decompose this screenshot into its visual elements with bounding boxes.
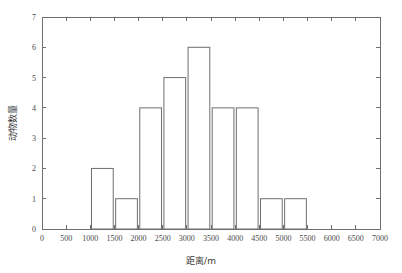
x-tick-label-0: 0 [40, 234, 44, 243]
bar-3500-4000 [212, 108, 234, 229]
y-tick-label-6: 6 [32, 43, 36, 52]
x-tick-label-6000: 6000 [324, 234, 340, 243]
y-tick-label-4: 4 [32, 104, 36, 113]
x-tick-label-7000: 7000 [372, 234, 388, 243]
y-tick-label-1: 1 [32, 195, 36, 204]
histogram-bars [91, 47, 306, 229]
x-tick-label-2500: 2500 [155, 234, 171, 243]
x-tick-label-3500: 3500 [203, 234, 219, 243]
bar-1500-2000 [116, 199, 138, 229]
bar-2500-3000 [164, 78, 186, 229]
bar-2000-2500 [140, 108, 162, 229]
y-tick-label-0: 0 [32, 225, 36, 234]
x-tick-label-3000: 3000 [179, 234, 195, 243]
y-tick-label-5: 5 [32, 74, 36, 83]
histogram-figure: 0500100015002000250030003500400045005000… [0, 0, 402, 273]
y-tick-label-7: 7 [32, 13, 36, 22]
bar-4500-5000 [260, 199, 282, 229]
x-tick-label-1000: 1000 [82, 234, 98, 243]
bar-5000-5500 [285, 199, 307, 229]
x-tick-label-500: 500 [60, 234, 72, 243]
x-tick-label-6500: 6500 [348, 234, 364, 243]
y-axis-tick-labels: 01234567 [32, 13, 36, 234]
y-tick-label-2: 2 [32, 164, 36, 173]
x-tick-label-5000: 5000 [275, 234, 291, 243]
y-tick-label-3: 3 [32, 134, 36, 143]
bar-3000-3500 [188, 47, 210, 229]
y-axis-title: 动物数量 [7, 105, 18, 141]
bar-1000-1500 [91, 168, 113, 229]
x-axis-tick-labels: 0500100015002000250030003500400045005000… [40, 234, 388, 243]
x-tick-label-4000: 4000 [227, 234, 243, 243]
x-tick-label-4500: 4500 [251, 234, 267, 243]
x-axis-title: 距离/m [186, 255, 216, 266]
bar-4000-4500 [236, 108, 258, 229]
x-tick-label-1500: 1500 [106, 234, 122, 243]
x-tick-label-2000: 2000 [131, 234, 147, 243]
chart-canvas: 0500100015002000250030003500400045005000… [0, 0, 402, 273]
x-tick-label-5500: 5500 [300, 234, 316, 243]
